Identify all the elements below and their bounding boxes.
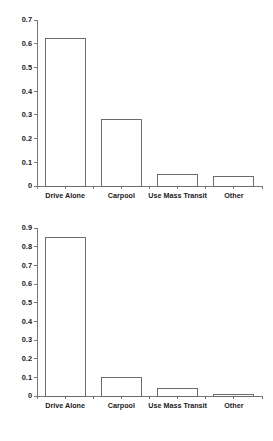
bar[interactable] — [45, 39, 85, 186]
y-axis-tick-label: 0.7 — [22, 15, 32, 24]
y-axis-tick-label: 0.6 — [22, 39, 32, 48]
x-axis-category-label: Drive Alone — [45, 401, 85, 410]
x-axis-category-label: Other — [224, 191, 243, 200]
x-axis-category-label: Carpool — [108, 401, 135, 410]
y-axis-tick-label: 0.7 — [22, 261, 32, 270]
x-axis-category-label: Other — [224, 401, 243, 410]
y-axis-tick-label: 0.4 — [22, 87, 33, 96]
bar[interactable] — [214, 177, 254, 186]
y-axis-tick-label: 0.6 — [22, 279, 32, 288]
bar-chart-bottom-canvas: 00.10.20.30.40.50.60.70.80.9Drive AloneC… — [0, 214, 273, 441]
y-axis-tick-label: 0.8 — [22, 242, 32, 251]
bar-chart-bottom: 00.10.20.30.40.50.60.70.80.9Drive AloneC… — [0, 214, 273, 441]
y-axis-tick-label: 0.2 — [22, 354, 32, 363]
bar-chart-top: 00.10.20.30.40.50.60.7Drive AloneCarpool… — [0, 0, 273, 212]
bar[interactable] — [158, 174, 198, 186]
bar[interactable] — [101, 377, 141, 396]
x-axis-category-label: Use Mass Transit — [148, 191, 207, 200]
y-axis-tick-label: 0.3 — [22, 110, 32, 119]
y-axis-tick-label: 0.5 — [22, 298, 32, 307]
y-axis-tick-label: 0.1 — [22, 158, 32, 167]
bar[interactable] — [101, 120, 141, 186]
bar[interactable] — [158, 389, 198, 396]
y-axis-tick-label: 0 — [28, 181, 32, 190]
y-axis-tick-label: 0.2 — [22, 134, 32, 143]
y-axis-tick-label: 0.5 — [22, 63, 32, 72]
x-axis-category-label: Carpool — [108, 191, 135, 200]
x-axis-category-label: Drive Alone — [45, 191, 85, 200]
x-axis-category-label: Use Mass Transit — [148, 401, 207, 410]
bar[interactable] — [214, 394, 254, 396]
y-axis-tick-label: 0.1 — [22, 373, 32, 382]
y-axis-tick-label: 0.3 — [22, 335, 32, 344]
bar-chart-top-canvas: 00.10.20.30.40.50.60.7Drive AloneCarpool… — [0, 0, 273, 212]
y-axis-tick-label: 0.4 — [22, 317, 33, 326]
y-axis-tick-label: 0.9 — [22, 223, 32, 232]
y-axis-tick-label: 0 — [28, 391, 32, 400]
bar[interactable] — [45, 237, 85, 396]
